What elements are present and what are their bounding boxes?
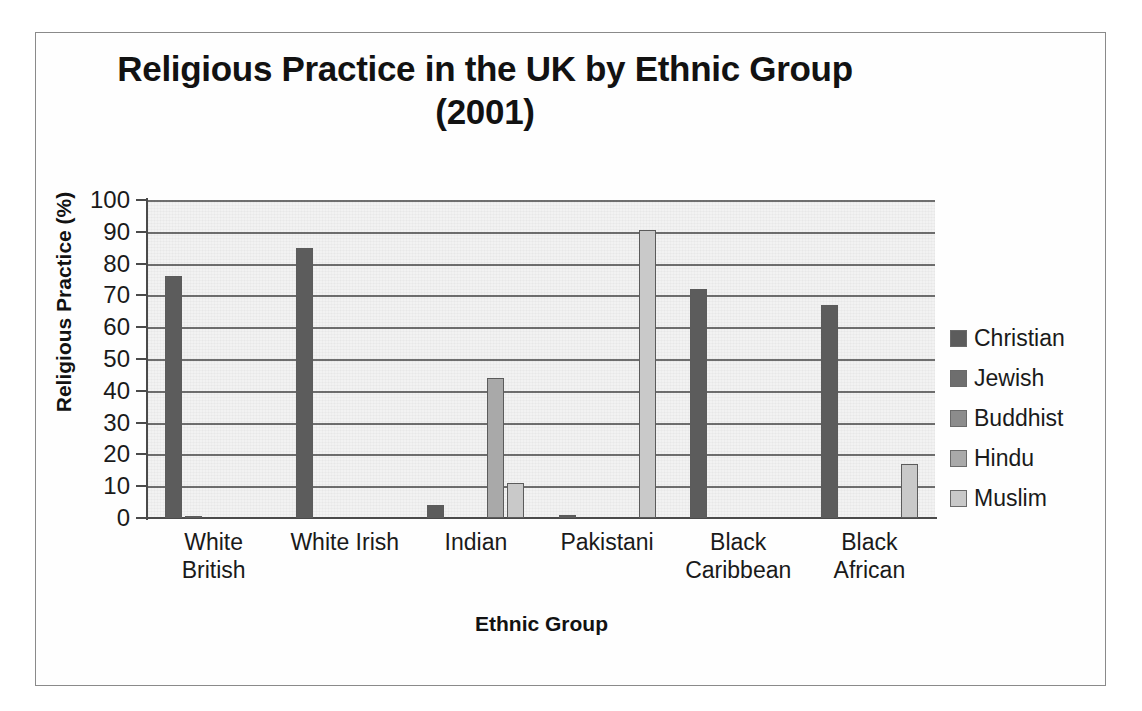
legend-swatch-icon [950,450,967,467]
x-axis-tick-label: WhiteBritish [148,528,279,584]
legend-label: Christian [974,325,1065,352]
gridline [148,264,935,266]
x-axis-line [146,517,937,519]
bar [427,505,444,518]
bar-group [821,200,918,518]
bar-group [559,200,656,518]
x-axis-tick-label: BlackAfrican [804,528,935,584]
gridline [148,454,935,456]
y-axis-tick [136,199,148,201]
x-axis-title: Ethnic Group [148,612,935,636]
legend-item-muslim[interactable]: Muslim [950,478,1110,518]
x-axis-tick-label-line: Black [673,528,804,556]
y-axis-tick-label: 20 [60,440,130,468]
bar [487,378,504,518]
bar [165,276,182,518]
y-axis-tick [136,453,148,455]
x-axis-tick-label: White Irish [279,528,410,556]
y-axis-tick [136,422,148,424]
y-axis-tick-label: 50 [60,345,130,373]
y-axis-tick [136,294,148,296]
y-axis-tick-label: 100 [60,186,130,214]
x-axis-tick-label-line: Pakistani [542,528,673,556]
gridline [148,423,935,425]
bar-group [165,200,262,518]
legend-item-jewish[interactable]: Jewish [950,358,1110,398]
gridline [148,391,935,393]
gridline [148,295,935,297]
bar-group [427,200,524,518]
y-axis-tick-label: 10 [60,472,130,500]
y-axis-tick [136,358,148,360]
plot-area [148,200,935,518]
y-axis-tick [136,326,148,328]
legend-label: Muslim [974,485,1047,512]
y-axis-tick-label: 70 [60,281,130,309]
bar [185,516,202,518]
x-axis-tick-label-line: British [148,556,279,584]
y-axis-tick-label: 90 [60,218,130,246]
chart-title-line-2: (2001) [55,91,915,134]
legend-label: Buddhist [974,405,1064,432]
bar [639,230,656,518]
x-axis-tick-label: BlackCaribbean [673,528,804,584]
y-axis-tick-label: 80 [60,250,130,278]
y-axis-tick-label: 60 [60,313,130,341]
legend-item-christian[interactable]: Christian [950,318,1110,358]
y-axis-tick-label: 40 [60,377,130,405]
y-axis-tick [136,263,148,265]
legend-swatch-icon [950,490,967,507]
gridline [148,486,935,488]
bar [507,483,524,518]
x-axis-tick-label-line: Indian [410,528,541,556]
legend-item-hindu[interactable]: Hindu [950,438,1110,478]
legend-label: Jewish [974,365,1044,392]
gridline [148,232,935,234]
x-axis-tick-label: Pakistani [542,528,673,556]
bar [821,305,838,518]
chart-title: Religious Practice in the UK by Ethnic G… [55,48,915,133]
x-axis-tick-label-line: Caribbean [673,556,804,584]
x-axis-tick-label: Indian [410,528,541,556]
legend-swatch-icon [950,410,967,427]
bar [690,289,707,518]
y-axis-tick [136,231,148,233]
chart-title-line-1: Religious Practice in the UK by Ethnic G… [117,49,853,88]
x-axis-tick-label-line: African [804,556,935,584]
gridline [148,359,935,361]
legend-item-buddhist[interactable]: Buddhist [950,398,1110,438]
y-axis-tick-label: 0 [60,504,130,532]
x-axis-tick-label-line: White Irish [279,528,410,556]
legend-swatch-icon [950,370,967,387]
legend-label: Hindu [974,445,1034,472]
x-axis-tick-label-line: White [148,528,279,556]
bar [559,515,576,518]
gridline [148,200,935,202]
chart-legend: ChristianJewishBuddhistHinduMuslim [950,318,1110,518]
y-axis-tick [136,485,148,487]
y-axis-tick-labels: 1009080706050403020100 [54,0,130,711]
bar-group [296,200,393,518]
bar [901,464,918,518]
legend-swatch-icon [950,330,967,347]
bar [296,248,313,518]
gridline [148,327,935,329]
y-axis-tick-label: 30 [60,409,130,437]
bar-group [690,200,787,518]
y-axis-tick [136,390,148,392]
x-axis-tick-label-line: Black [804,528,935,556]
y-axis-tick [136,517,148,519]
